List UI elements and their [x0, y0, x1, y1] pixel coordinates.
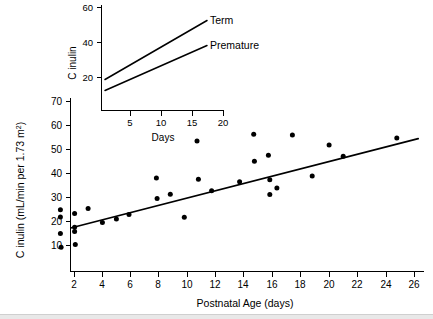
y-axis-title-main: C inulin (mL/min per 1.73 m [14, 129, 26, 258]
data-point [154, 176, 159, 181]
xtick-label-18: 18 [294, 279, 306, 290]
inset-ytick-label-60: 60 [82, 2, 93, 13]
scatter-points-group [58, 132, 399, 250]
inset-series-term-line [105, 21, 207, 80]
data-point [290, 132, 295, 137]
data-point [195, 138, 200, 143]
inset-ytick-label-20: 20 [82, 72, 93, 83]
data-point [266, 153, 271, 158]
data-point [267, 192, 272, 197]
xtick-label-10: 10 [181, 279, 193, 290]
data-point [127, 212, 132, 217]
data-point [114, 216, 119, 221]
data-point [310, 173, 315, 178]
y-axis-title-group: C inulin (mL/min per 1.73 m2) [14, 122, 26, 258]
ytick-label-50: 50 [51, 144, 63, 155]
xtick-label-22: 22 [351, 279, 363, 290]
xtick-label-26: 26 [408, 279, 420, 290]
inset-x-axis-title: Days [152, 132, 175, 143]
x-axis-title: Postnatal Age (days) [197, 297, 294, 309]
data-point [267, 177, 272, 182]
xtick-label-6: 6 [127, 279, 133, 290]
inset-y-axis-title: C inulin [67, 46, 78, 79]
ytick-label-70: 70 [51, 96, 63, 107]
xtick-label-2: 2 [71, 279, 77, 290]
xtick-label-4: 4 [99, 279, 105, 290]
data-point [72, 229, 77, 234]
xtick-label-20: 20 [323, 279, 335, 290]
data-point [252, 159, 257, 164]
xtick-label-24: 24 [380, 279, 392, 290]
regression-line [72, 139, 419, 228]
y-axis-title-tail: ) [14, 122, 26, 126]
xtick-label-16: 16 [266, 279, 278, 290]
data-point [58, 207, 63, 212]
xtick-label-12: 12 [209, 279, 221, 290]
data-point [168, 192, 173, 197]
data-point [73, 242, 78, 247]
inset-xtick-label-5: 5 [127, 117, 132, 128]
ytick-label-30: 30 [51, 192, 63, 203]
main-axis-spines [71, 98, 425, 272]
inset-ytick-label-40: 40 [82, 37, 93, 48]
data-point [209, 188, 214, 193]
data-point [58, 215, 63, 220]
inset-series-label-premature: Premature [210, 39, 259, 51]
ytick-label-40: 40 [51, 168, 63, 179]
data-point [72, 211, 77, 216]
data-point [196, 177, 201, 182]
figure-container: 60 40 20 5 10 15 20 C inulin Days Term P… [0, 0, 433, 319]
data-point [394, 136, 399, 141]
xtick-label-14: 14 [237, 279, 249, 290]
inset-xtick-label-10: 10 [156, 117, 167, 128]
inset-series-label-term: Term [210, 14, 234, 26]
footer-divider [0, 314, 433, 319]
data-point [274, 186, 279, 191]
data-point [327, 142, 332, 147]
data-point [86, 206, 91, 211]
data-point [59, 245, 64, 250]
inset-series-premature-line [105, 46, 207, 91]
inset-xtick-label-20: 20 [218, 117, 229, 128]
data-point [100, 220, 105, 225]
data-point [237, 179, 242, 184]
data-point [251, 132, 256, 137]
data-point [58, 231, 63, 236]
chart-canvas: 60 40 20 5 10 15 20 C inulin Days Term P… [0, 0, 433, 319]
xtick-label-8: 8 [155, 279, 161, 290]
y-axis-title: C inulin (mL/min per 1.73 m2) [14, 122, 26, 258]
data-point [341, 154, 346, 159]
inset-chart-group: 60 40 20 5 10 15 20 C inulin Days Term P… [67, 2, 259, 143]
data-point [182, 215, 187, 220]
data-point [155, 196, 160, 201]
inset-xtick-label-15: 15 [187, 117, 198, 128]
ytick-label-60: 60 [51, 120, 63, 131]
